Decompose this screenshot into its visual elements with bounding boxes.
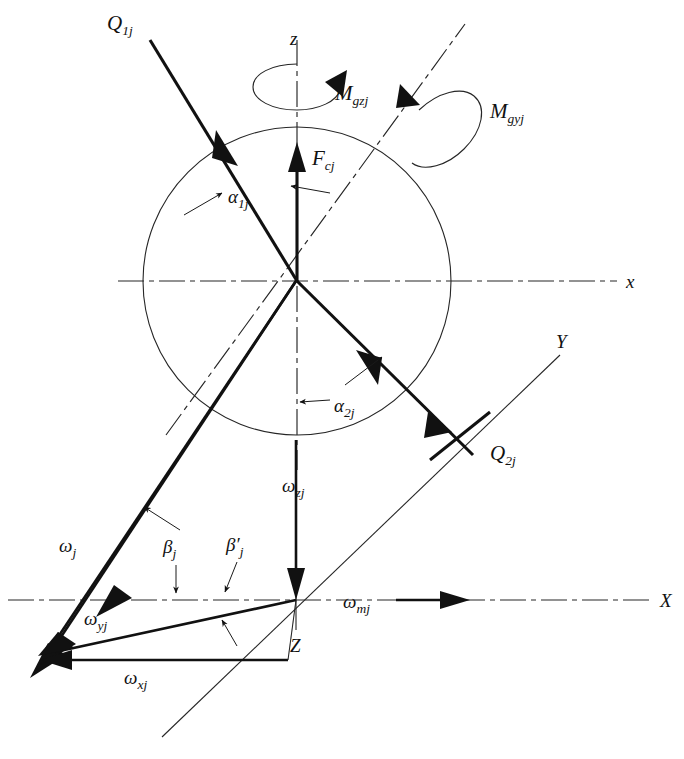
label-omega-mj-sub: mj	[356, 601, 370, 616]
label-axis-z: z	[289, 28, 298, 49]
label-mgyj-sub: gyj	[508, 111, 525, 126]
label-omega-zj: ωzj	[282, 475, 305, 500]
betaj-leader-to-omegaj	[144, 507, 180, 530]
label-omega-j: ωj	[59, 535, 76, 560]
label-mgzj: Mgzj	[334, 81, 369, 108]
moment-mgyj-arc	[412, 91, 482, 167]
vector-q2j-outer	[430, 412, 490, 460]
label-axis-x: x	[625, 271, 635, 292]
vector-q2j-arrowhead-inner	[356, 350, 382, 385]
label-fcj-main: F	[311, 146, 325, 170]
label-betaj: βj	[162, 536, 176, 561]
vector-q2j-arrowhead-outer	[424, 412, 452, 438]
label-omega-mj-main: ω	[343, 591, 356, 612]
label-alpha1j-sub: 1j	[238, 196, 249, 211]
label-q2j: Q2j	[490, 441, 516, 468]
label-omega-yj-main: ω	[84, 608, 97, 629]
vector-fcj-arrowhead	[288, 142, 306, 172]
vector-omega-zj-arrowhead	[287, 568, 305, 600]
label-omega-j-main: ω	[59, 535, 72, 556]
label-q1j: Q1j	[107, 11, 133, 38]
axis-Y-global	[162, 355, 560, 737]
label-axis-X: X	[659, 590, 673, 611]
label-mgyj-main: M	[489, 99, 509, 123]
label-omega-xj-sub: xj	[136, 677, 147, 692]
diagram-canvas: Q1j z Mgzj Mgyj Fcj α1j x α2j Y Q2j	[0, 0, 684, 759]
label-mgzj-main: M	[334, 81, 354, 105]
label-alpha1j: α1j	[228, 186, 249, 211]
label-q2j-sub: 2j	[505, 453, 516, 468]
label-axis-Y: Y	[556, 331, 569, 352]
label-betaj-main: β	[162, 536, 173, 557]
label-omega-zj-sub: zj	[294, 485, 304, 500]
label-fcj-sub: cj	[325, 158, 335, 173]
vector-omega-yj-mid-arrowhead	[96, 585, 132, 617]
figure-container: Q1j z Mgzj Mgyj Fcj α1j x α2j Y Q2j	[0, 0, 684, 759]
label-mgyj: Mgyj	[489, 99, 524, 126]
vector-q1j-arrowhead	[212, 130, 238, 166]
label-q2j-main: Q	[490, 441, 505, 465]
label-betaj-prime: β′j	[225, 534, 244, 559]
label-mgzj-sub: gzj	[353, 93, 369, 108]
label-axis-Z: Z	[290, 635, 301, 656]
label-omega-yj-sub: yj	[95, 618, 107, 633]
alpha2j-leader-left	[300, 400, 330, 402]
vector-omega-mj-arrowhead	[440, 591, 470, 609]
label-betaj-prime-main: β′	[225, 534, 240, 555]
label-alpha2j-sub: 2j	[344, 405, 355, 420]
label-omega-zj-main: ω	[282, 475, 295, 496]
label-omega-mj: ωmj	[343, 591, 370, 616]
label-q1j-main: Q	[107, 11, 122, 35]
label-omega-xj-main: ω	[124, 667, 137, 688]
label-fcj: Fcj	[311, 146, 335, 173]
label-q1j-sub: 1j	[122, 23, 133, 38]
betaj-prime-leader-up	[222, 620, 237, 646]
label-alpha2j: α2j	[334, 395, 355, 420]
betaj-prime-leader-down	[225, 562, 237, 592]
moment-mgyj-arrowhead	[396, 84, 420, 108]
label-omega-xj: ωxj	[124, 667, 147, 692]
alpha1j-leader-left	[184, 193, 222, 215]
